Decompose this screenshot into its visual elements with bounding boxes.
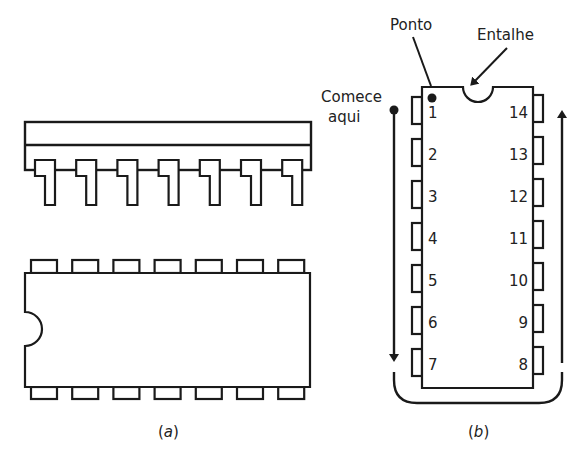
bottom-row-pin	[155, 387, 181, 399]
bottom-row-pin	[31, 387, 57, 399]
caption-a: (a)	[158, 423, 179, 441]
pin-number-left: 2	[428, 146, 438, 164]
right-pin	[533, 221, 543, 248]
bottom-row-pin	[278, 387, 304, 399]
bottom-row-pin	[237, 387, 263, 399]
label-aqui: aqui	[328, 108, 360, 126]
side-view-pins	[35, 160, 302, 205]
top-view-body-with-notch	[25, 273, 310, 387]
pin-number-right: 8	[518, 356, 528, 374]
pin-number-left: 5	[428, 272, 438, 290]
top-row-pin	[155, 260, 181, 273]
pin-number-left: 1	[428, 104, 438, 122]
pin-number-left: 6	[428, 314, 438, 332]
side-view-chip	[25, 122, 311, 205]
bottom-row-pin	[196, 387, 222, 399]
pin-number-left: 4	[428, 230, 438, 248]
top-row-pin	[113, 260, 139, 273]
right-pin	[533, 95, 543, 122]
left-pin	[412, 181, 422, 208]
side-view-pin	[35, 160, 55, 205]
ponto-pointer-line	[413, 37, 431, 86]
left-pin	[412, 139, 422, 166]
left-pin	[412, 265, 422, 292]
right-pin	[533, 305, 543, 332]
left-pin	[412, 223, 422, 250]
pin1-dot-marker	[428, 94, 437, 103]
side-view-pin	[282, 160, 302, 205]
side-view-pin	[159, 160, 179, 205]
side-view-pin	[76, 160, 96, 205]
right-pin	[533, 137, 543, 164]
caption-b: (b)	[468, 423, 489, 441]
right-pin	[533, 263, 543, 290]
left-pin	[412, 97, 422, 124]
left-pin	[412, 349, 422, 376]
left-pin	[412, 307, 422, 334]
label-comece: Comece	[321, 88, 382, 106]
label-entalhe: Entalhe	[477, 26, 534, 44]
top-view-chip	[25, 260, 310, 399]
top-row-pin	[237, 260, 263, 273]
pinout-chip: 1142133124115106978	[412, 87, 543, 388]
pin-number-right: 9	[518, 314, 528, 332]
top-row-pin	[196, 260, 222, 273]
right-pin	[533, 347, 543, 374]
pin-number-left: 3	[428, 188, 438, 206]
pin-number-right: 10	[509, 272, 528, 290]
pin-number-right: 14	[509, 104, 528, 122]
side-view-pin	[200, 160, 220, 205]
top-row-pin	[278, 260, 304, 273]
pin-number-right: 13	[509, 146, 528, 164]
side-view-pin	[241, 160, 261, 205]
bottom-row-pin	[72, 387, 98, 399]
top-row-pin	[72, 260, 98, 273]
pin-number-right: 12	[509, 188, 528, 206]
top-row-pin	[31, 260, 57, 273]
label-ponto: Ponto	[390, 16, 432, 34]
entalhe-arrow	[473, 48, 507, 83]
pin-number-right: 11	[509, 230, 528, 248]
pin-number-left: 7	[428, 356, 438, 374]
right-pin	[533, 179, 543, 206]
dip-ic-figure: (a) 1142133124115106978 Ponto Entalhe Co…	[0, 0, 578, 454]
side-view-pin	[117, 160, 137, 205]
bottom-row-pin	[113, 387, 139, 399]
